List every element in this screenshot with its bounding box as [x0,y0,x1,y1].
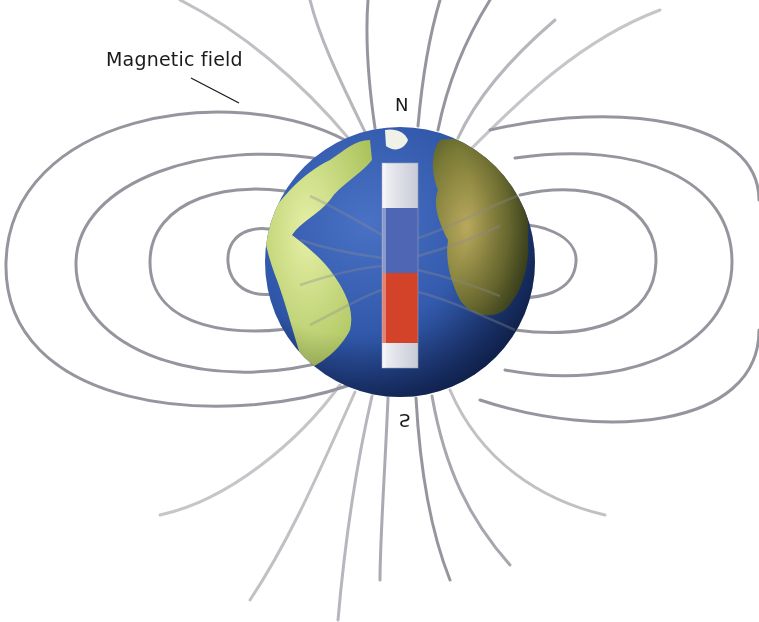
south-field-lines [160,385,605,620]
magnet-south-pole [382,273,418,343]
magnet-top-cap [382,163,418,208]
south-pole-label: S [399,410,410,431]
north-field-lines [180,0,660,150]
magnet-bottom-cap [382,343,418,368]
diagram-canvas [0,0,759,622]
magnetic-field-label: Magnetic field [106,48,243,70]
field-line [416,398,450,580]
field-line [250,392,355,600]
field-line [450,390,605,515]
bar-magnet [382,163,418,368]
field-line [438,0,490,130]
north-pole-label: N [395,94,408,115]
field-loop [505,154,732,376]
field-line [310,0,365,132]
field-loop [480,330,759,422]
field-line [418,0,440,126]
magnetic-field-diagram: Magnetic field N S [0,0,759,622]
field-loop [515,190,656,333]
field-line [180,0,350,140]
field-line [432,396,510,565]
label-leader-line [191,78,239,103]
magnet-north-pole [382,208,418,273]
field-line [380,398,388,580]
field-line [338,396,372,620]
field-line [367,0,375,128]
